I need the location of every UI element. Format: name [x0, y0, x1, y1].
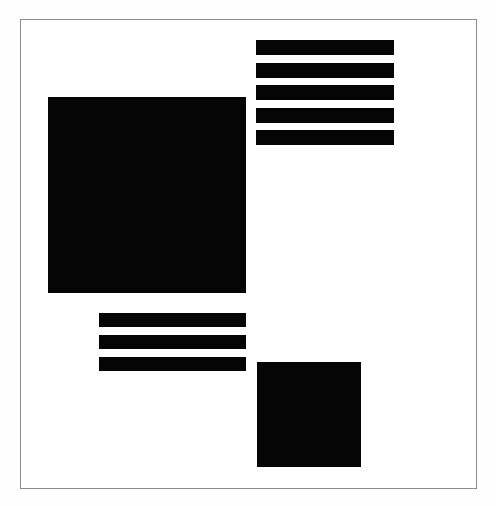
- large-square: [48, 97, 246, 293]
- border-frame: [20, 19, 477, 489]
- upper-right-bars: [256, 40, 394, 145]
- artboard: [0, 0, 496, 506]
- canvas-surface: [21, 20, 476, 488]
- bar: [256, 85, 394, 100]
- bar: [99, 357, 246, 371]
- bar: [256, 130, 394, 145]
- small-square: [257, 362, 361, 467]
- bar: [256, 40, 394, 55]
- lower-left-bars: [99, 313, 246, 371]
- bar: [256, 108, 394, 123]
- bar: [256, 63, 394, 78]
- bar: [99, 313, 246, 327]
- bar: [99, 335, 246, 349]
